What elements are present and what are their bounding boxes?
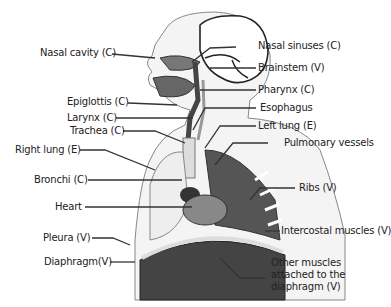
label-brainstem: Brainstem (V) [258, 62, 324, 74]
label-nasal-cavity: Nasal cavity (C) [40, 47, 116, 59]
label-ribs: Ribs (V) [299, 182, 337, 194]
label-intercostal-muscles: Intercostal muscles (V) [281, 225, 391, 237]
label-pharynx: Pharynx (C) [258, 84, 315, 96]
respiratory-diagram: Nasal cavity (C) Nasal sinuses (C) Brain… [0, 0, 391, 307]
label-bronchi: Bronchi (C) [34, 174, 88, 186]
label-esophagus: Esophagus [260, 102, 313, 114]
label-right-lung: Right lung (E) [15, 144, 81, 156]
label-pulmonary-vessels: Pulmonary vessels [284, 137, 374, 149]
label-nasal-sinuses: Nasal sinuses (C) [258, 40, 341, 52]
label-diaphragm: Diaphragm(V) [44, 256, 112, 268]
label-trachea: Trachea (C) [70, 125, 125, 137]
label-heart: Heart [55, 201, 82, 213]
label-pleura: Pleura (V) [43, 232, 90, 244]
label-other-muscles: Other muscles attached to the diaphragm … [271, 257, 366, 293]
label-left-lung: Left lung (E) [258, 120, 317, 132]
label-larynx: Larynx (C) [67, 112, 117, 124]
label-epiglottis: Epiglottis (C) [67, 96, 129, 108]
